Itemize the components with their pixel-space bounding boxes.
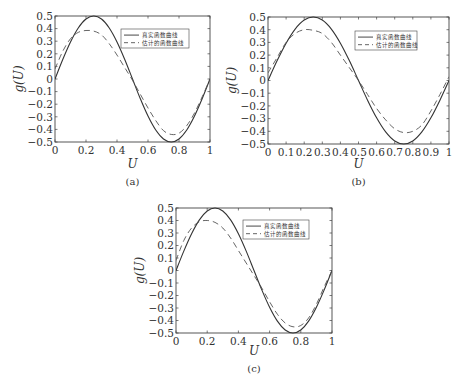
legend-estimated-label: 估计的函数曲线 bbox=[376, 41, 418, 49]
x-tick-label: 0.6 bbox=[140, 144, 157, 156]
x-tick-label: 1 bbox=[207, 144, 214, 156]
y-tick-label: 0.3 bbox=[249, 36, 266, 48]
x-tick-label: 0.7 bbox=[386, 146, 403, 158]
legend: 真实函数曲线估计的函数曲线 bbox=[121, 29, 189, 48]
y-tick-label: −0.5 bbox=[241, 138, 267, 150]
y-tick-label: −0.2 bbox=[28, 98, 54, 110]
chart-panel-c: 0.50.40.30.20.10−0.1−0.2−0.3−0.4−0.500.2… bbox=[110, 190, 350, 383]
legend: 真实函数曲线估计的函数曲线 bbox=[243, 220, 309, 239]
y-tick-label: 0.2 bbox=[36, 48, 53, 60]
chart-c-svg: 0.50.40.30.20.10−0.1−0.2−0.3−0.4−0.500.2… bbox=[110, 190, 350, 383]
y-tick-label: 0.3 bbox=[157, 227, 174, 239]
y-tick-label: 0.4 bbox=[249, 24, 266, 36]
x-tick-label: 0 bbox=[173, 335, 180, 347]
y-tick-label: 0.4 bbox=[157, 214, 174, 226]
x-axis-label: U bbox=[353, 157, 364, 171]
x-tick-label: 0.6 bbox=[261, 335, 278, 347]
y-tick-label: −0.3 bbox=[241, 112, 267, 124]
x-tick-label: 0.1 bbox=[278, 146, 295, 158]
y-tick-label: 0 bbox=[259, 74, 266, 86]
y-tick-label: 0.2 bbox=[249, 49, 266, 61]
y-tick-label: −0.3 bbox=[149, 302, 175, 314]
legend-true-label: 真实函数曲线 bbox=[142, 31, 178, 39]
y-tick-label: −0.2 bbox=[149, 289, 175, 301]
y-tick-label: 0.5 bbox=[157, 202, 174, 214]
x-tick-label: 0.6 bbox=[368, 146, 385, 158]
y-tick-label: 0.1 bbox=[157, 252, 174, 264]
y-tick-label: −0.5 bbox=[149, 327, 175, 339]
figure-caption: (a) bbox=[126, 176, 140, 187]
x-tick-label: 0 bbox=[265, 146, 272, 158]
x-tick-label: 0.4 bbox=[230, 335, 247, 347]
x-tick-label: 0.2 bbox=[78, 144, 95, 156]
y-tick-label: −0.1 bbox=[28, 85, 54, 97]
y-tick-label: 0.3 bbox=[36, 35, 53, 47]
x-tick-label: 0.8 bbox=[171, 144, 188, 156]
x-tick-label: 0.4 bbox=[109, 144, 126, 156]
y-tick-label: −0.4 bbox=[241, 125, 267, 137]
y-tick-label: −0.4 bbox=[149, 314, 175, 326]
figure-caption: (c) bbox=[247, 363, 261, 374]
x-tick-label: 0 bbox=[52, 144, 59, 156]
chart-panel-a: 0.50.40.30.20.10−0.1−0.2−0.3−0.4−0.500.2… bbox=[0, 0, 230, 190]
legend-true-label: 真实函数曲线 bbox=[376, 33, 412, 41]
x-tick-label: 0.9 bbox=[423, 146, 440, 158]
x-tick-label: 0.3 bbox=[314, 146, 331, 158]
x-axis-label: U bbox=[249, 344, 260, 358]
y-tick-label: 0.1 bbox=[36, 60, 53, 72]
y-tick-label: −0.1 bbox=[149, 277, 175, 289]
y-tick-label: 0.5 bbox=[36, 10, 53, 22]
legend-estimated-label: 估计的函数曲线 bbox=[264, 230, 306, 238]
legend-estimated-label: 估计的函数曲线 bbox=[142, 39, 184, 47]
x-tick-label: 0.4 bbox=[332, 146, 349, 158]
figure-caption: (b) bbox=[351, 176, 365, 187]
x-tick-label: 0.8 bbox=[292, 335, 309, 347]
x-axis-label: U bbox=[127, 157, 138, 171]
x-tick-label: 0.8 bbox=[404, 146, 421, 158]
y-axis-label: g(U) bbox=[225, 67, 239, 94]
y-tick-label: 0.2 bbox=[157, 239, 174, 251]
y-axis-label: g(U) bbox=[12, 65, 26, 92]
legend: 真实函数曲线估计的函数曲线 bbox=[355, 31, 418, 50]
x-tick-label: 1 bbox=[329, 335, 336, 347]
y-tick-label: −0.3 bbox=[28, 111, 54, 123]
x-tick-label: 0.2 bbox=[199, 335, 216, 347]
y-tick-label: 0 bbox=[167, 264, 174, 276]
y-tick-label: −0.5 bbox=[28, 136, 54, 148]
x-tick-label: 0.2 bbox=[296, 146, 313, 158]
y-tick-label: 0.1 bbox=[249, 62, 266, 74]
y-axis-label: g(U) bbox=[133, 257, 147, 284]
y-tick-label: 0.5 bbox=[249, 11, 266, 23]
y-tick-label: 0.4 bbox=[36, 22, 53, 34]
chart-a-svg: 0.50.40.30.20.10−0.1−0.2−0.3−0.4−0.500.2… bbox=[0, 0, 230, 190]
chart-panel-b: 0.50.40.30.20.10−0.1−0.2−0.3−0.4−0.500.1… bbox=[230, 0, 459, 190]
legend-true-label: 真实函数曲线 bbox=[264, 222, 300, 230]
y-tick-label: −0.1 bbox=[241, 87, 267, 99]
y-tick-label: −0.4 bbox=[28, 123, 54, 135]
y-tick-label: −0.2 bbox=[241, 100, 267, 112]
x-tick-label: 1 bbox=[446, 146, 453, 158]
y-tick-label: 0 bbox=[46, 73, 53, 85]
chart-b-svg: 0.50.40.30.20.10−0.1−0.2−0.3−0.4−0.500.1… bbox=[230, 0, 459, 190]
